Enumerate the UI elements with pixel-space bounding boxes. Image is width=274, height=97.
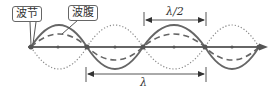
caption <box>90 86 190 92</box>
node-label: 波节 <box>12 6 42 22</box>
half-wavelength-label: λ/2 <box>166 5 184 18</box>
antinode-label: 波腹 <box>68 5 98 21</box>
